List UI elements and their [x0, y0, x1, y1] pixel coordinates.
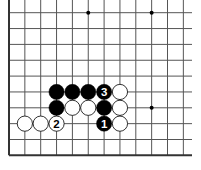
black-stone [49, 84, 64, 99]
white-stone [81, 100, 96, 115]
white-stone [33, 116, 48, 131]
white-stone [112, 116, 127, 131]
black-stone [49, 100, 64, 115]
move-number-label: 2 [53, 118, 59, 130]
white-stone [112, 84, 127, 99]
white-stone [65, 100, 80, 115]
white-stone [112, 100, 127, 115]
move-number-label: 1 [101, 118, 108, 130]
star-point [150, 11, 154, 15]
go-board: 321 [0, 0, 201, 170]
star-point [150, 106, 154, 110]
move-number-label: 3 [101, 86, 107, 98]
black-stone [81, 84, 96, 99]
star-point [86, 11, 90, 15]
black-stone [65, 84, 80, 99]
white-stone [17, 116, 32, 131]
black-stone [97, 100, 112, 115]
